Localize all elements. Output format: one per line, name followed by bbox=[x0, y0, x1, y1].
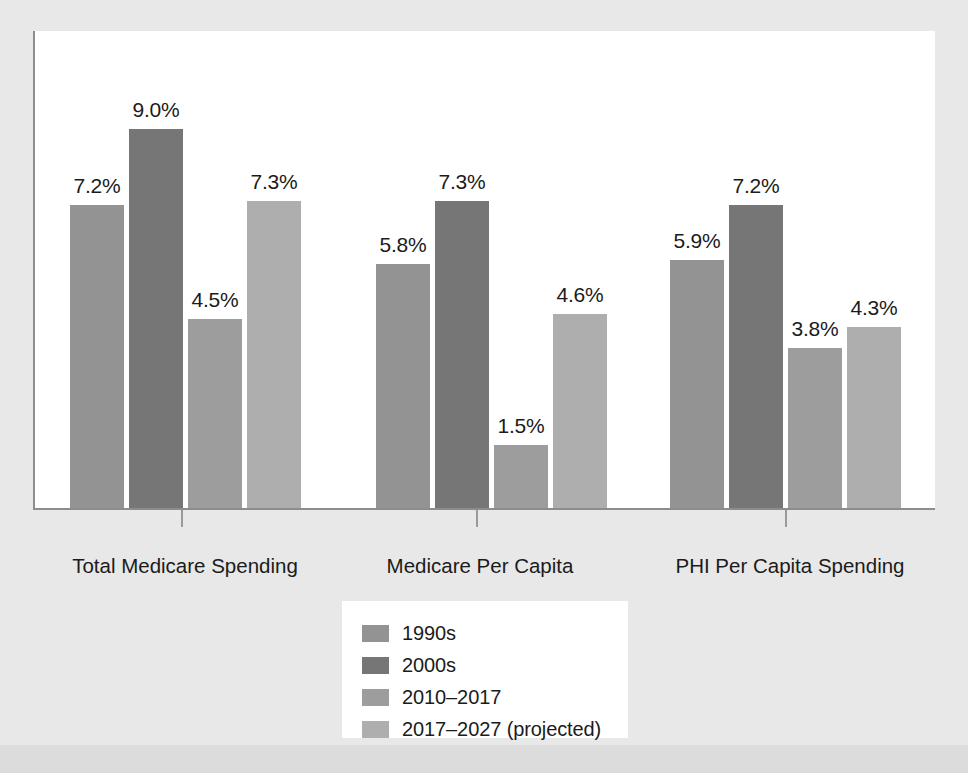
bar bbox=[376, 264, 430, 508]
group-tick-3 bbox=[785, 510, 787, 527]
bar-value-label: 9.0% bbox=[116, 98, 196, 122]
bar-value-label: 5.8% bbox=[363, 233, 443, 257]
bar-value-label: 4.3% bbox=[834, 296, 914, 320]
legend-item-2000s: 2000s bbox=[362, 650, 628, 680]
bar bbox=[435, 201, 489, 508]
group-tick-1 bbox=[181, 510, 183, 527]
bar bbox=[553, 314, 607, 508]
legend-swatch-icon bbox=[362, 625, 389, 642]
bar-value-label: 4.6% bbox=[540, 283, 620, 307]
legend-swatch-icon bbox=[362, 657, 389, 674]
category-label-line1: Medicare Per Capita bbox=[387, 554, 574, 577]
category-label-line1: Total Medicare Spending bbox=[72, 554, 298, 577]
bar bbox=[247, 201, 301, 508]
bar bbox=[70, 205, 124, 508]
legend-label: 1990s bbox=[402, 622, 456, 645]
group-tick-2 bbox=[476, 510, 478, 527]
x-axis-line bbox=[33, 508, 935, 510]
legend-item-2017-2027-projected: 2017–2027 (projected) bbox=[362, 714, 628, 744]
figure-container: 7.2%9.0%4.5%7.3%5.8%7.3%1.5%4.6%5.9%7.2%… bbox=[0, 0, 968, 773]
bar bbox=[729, 205, 783, 508]
legend-label: 2000s bbox=[402, 654, 456, 677]
legend-label: 2010–2017 bbox=[402, 686, 501, 709]
figure-bottom-strip bbox=[0, 745, 968, 773]
category-label-total-medicare-spending: Total Medicare Spending bbox=[40, 527, 330, 579]
bar-value-label: 7.2% bbox=[57, 174, 137, 198]
bars-layer: 7.2%9.0%4.5%7.3%5.8%7.3%1.5%4.6%5.9%7.2%… bbox=[0, 0, 968, 508]
bar bbox=[847, 327, 901, 508]
bar-value-label: 5.9% bbox=[657, 229, 737, 253]
legend-swatch-icon bbox=[362, 721, 389, 738]
bar-value-label: 1.5% bbox=[481, 414, 561, 438]
bar-value-label: 3.8% bbox=[775, 317, 855, 341]
category-label-phi-per-capita-spending: PHI Per Capita Spending bbox=[645, 527, 935, 579]
bar-value-label: 4.5% bbox=[175, 288, 255, 312]
legend-label: 2017–2027 (projected) bbox=[402, 718, 601, 741]
bar-value-label: 7.3% bbox=[234, 170, 314, 194]
legend: 1990s 2000s 2010–2017 2017–2027 (project… bbox=[342, 601, 628, 738]
bar bbox=[788, 348, 842, 508]
bar bbox=[670, 260, 724, 508]
legend-item-2010-2017: 2010–2017 bbox=[362, 682, 628, 712]
bar bbox=[494, 445, 548, 508]
bar-value-label: 7.2% bbox=[716, 174, 796, 198]
legend-swatch-icon bbox=[362, 689, 389, 706]
bar bbox=[129, 129, 183, 508]
bar-value-label: 7.3% bbox=[422, 170, 502, 194]
category-label-line1: PHI Per Capita Spending bbox=[675, 554, 904, 577]
bar bbox=[188, 319, 242, 508]
legend-item-1990s: 1990s bbox=[362, 618, 628, 648]
